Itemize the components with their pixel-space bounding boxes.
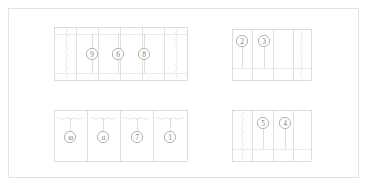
bottom-right-panel-balloon-label-5: 5 bbox=[261, 119, 265, 128]
bottom-left-panel-balloon-label-11: 11 bbox=[101, 134, 106, 141]
top-left-panel-balloon-label-8: 8 bbox=[142, 50, 146, 59]
top-right-panel: 23 bbox=[233, 30, 312, 81]
drawing-canvas: 9682310117154 bbox=[0, 0, 367, 186]
bottom-right-panel-outline bbox=[233, 111, 312, 162]
bottom-right-panel-balloon-label-4: 4 bbox=[283, 119, 287, 128]
technical-drawing: 9682310117154 bbox=[0, 0, 367, 186]
top-left-panel-balloon-label-6: 6 bbox=[116, 50, 120, 59]
bottom-left-panel-balloon-label-7: 7 bbox=[135, 133, 139, 142]
bottom-left-panel: 101171 bbox=[55, 111, 188, 162]
top-left-panel-balloon-label-9: 9 bbox=[90, 50, 94, 59]
top-right-panel-balloon-label-3: 3 bbox=[262, 37, 266, 46]
bottom-right-panel: 54 bbox=[233, 111, 312, 162]
top-left-panel: 968 bbox=[55, 28, 188, 81]
bottom-left-panel-balloon-label-1: 1 bbox=[168, 133, 172, 142]
top-right-panel-balloon-label-2: 2 bbox=[240, 37, 244, 46]
